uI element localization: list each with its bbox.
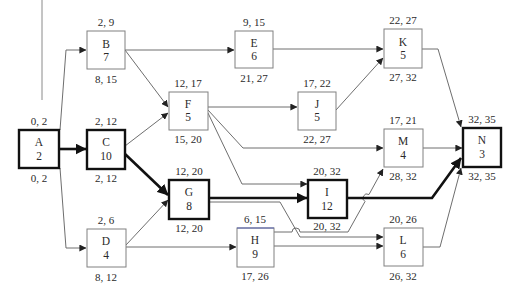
node-b-name: B [102, 38, 110, 50]
node-i-duration: 12 [321, 200, 333, 212]
node-c-early: 2, 12 [95, 115, 117, 127]
network-diagram: 0, 2 A 2 0, 2 2, 9 B 7 8, 15 2, 12 C 10 … [0, 0, 521, 295]
node-k-late: 27, 32 [389, 71, 417, 83]
node-m: 17, 21 M 4 28, 32 [384, 114, 423, 182]
edge-a-b [60, 50, 86, 130]
node-m-duration: 4 [400, 149, 406, 161]
node-i-early: 20, 32 [313, 165, 341, 177]
edge-f-m [208, 110, 383, 148]
node-a-late: 0, 2 [31, 172, 48, 184]
node-h-early: 6, 15 [244, 213, 267, 225]
node-m-early: 17, 21 [389, 114, 417, 126]
node-i: 20, 32 I 12 20, 32 [308, 165, 347, 232]
node-n-name: N [478, 134, 487, 146]
node-l-name: L [399, 234, 406, 246]
node-c: 2, 12 C 10 2, 12 [87, 115, 125, 184]
node-a-duration: 2 [36, 150, 42, 162]
node-f-late: 15, 20 [174, 133, 202, 145]
node-m-name: M [398, 135, 408, 147]
node-b: 2, 9 B 7 8, 15 [87, 16, 125, 85]
node-a-name: A [35, 136, 44, 148]
node-j-early: 17, 22 [303, 77, 331, 89]
node-c-duration: 10 [100, 150, 112, 162]
edge-c-g [125, 154, 168, 195]
node-h-late: 17, 26 [241, 270, 269, 282]
node-b-box [87, 31, 125, 69]
node-d-early: 2, 6 [98, 214, 115, 226]
node-k-early: 22, 27 [389, 14, 417, 26]
node-i-name: I [325, 186, 329, 198]
node-e-early: 9, 15 [243, 16, 266, 28]
node-l-early: 20, 26 [389, 213, 417, 225]
node-b-duration: 7 [103, 51, 109, 63]
node-i-late: 20, 32 [313, 220, 341, 232]
edge-c-f [125, 113, 168, 146]
node-j: 17, 22 J 5 22, 27 [298, 77, 336, 145]
node-l: 20, 26 L 6 26, 32 [384, 213, 423, 282]
node-k-name: K [399, 36, 408, 48]
node-e: 9, 15 E 6 21, 27 [235, 16, 273, 84]
node-g-name: G [185, 186, 193, 198]
edge-l-n [423, 168, 461, 247]
node-e-duration: 6 [251, 50, 257, 62]
node-d-name: D [102, 235, 110, 247]
node-g: 12, 20 G 8 12, 20 [169, 165, 209, 234]
node-h-duration: 9 [252, 248, 258, 260]
node-j-late: 22, 27 [303, 133, 331, 145]
node-d-duration: 4 [103, 249, 109, 261]
node-e-late: 21, 27 [240, 72, 268, 84]
node-d-late: 8, 12 [95, 271, 117, 283]
node-g-late: 12, 20 [175, 222, 203, 234]
node-g-early: 12, 20 [175, 165, 203, 177]
node-g-duration: 8 [186, 200, 192, 212]
node-f-name: F [185, 98, 191, 110]
node-a-early: 0, 2 [31, 115, 48, 127]
node-f-early: 12, 17 [174, 77, 202, 89]
node-l-duration: 6 [400, 248, 406, 260]
node-d: 2, 6 D 4 8, 12 [87, 214, 126, 283]
node-e-name: E [250, 37, 257, 49]
node-k-duration: 5 [400, 49, 406, 61]
edge-g-l [209, 202, 383, 237]
node-h: 6, 15 H 9 17, 26 [237, 213, 274, 282]
node-n: 32, 35 N 3 32, 35 [463, 113, 501, 182]
node-c-late: 2, 12 [95, 172, 117, 184]
node-n-duration: 3 [479, 148, 485, 160]
node-c-name: C [102, 136, 110, 148]
edge-b-f [125, 50, 168, 107]
node-n-late: 32, 35 [468, 170, 496, 182]
node-f-duration: 5 [185, 111, 191, 123]
node-f: 12, 17 F 5 15, 20 [169, 77, 208, 145]
node-a: 0, 2 A 2 0, 2 [19, 115, 59, 184]
node-n-early: 32, 35 [468, 113, 496, 125]
node-l-late: 26, 32 [389, 270, 417, 282]
node-b-early: 2, 9 [98, 16, 115, 28]
node-j-duration: 5 [314, 111, 320, 123]
edge-a-d [60, 168, 86, 248]
node-h-name: H [251, 234, 259, 246]
node-b-late: 8, 15 [95, 73, 118, 85]
edge-d-g [126, 200, 168, 245]
edge-k-n [422, 49, 461, 127]
edge-j-k [336, 58, 383, 110]
node-k: 22, 27 K 5 27, 32 [384, 14, 422, 83]
node-m-late: 28, 32 [389, 170, 417, 182]
node-j-name: J [315, 98, 320, 110]
